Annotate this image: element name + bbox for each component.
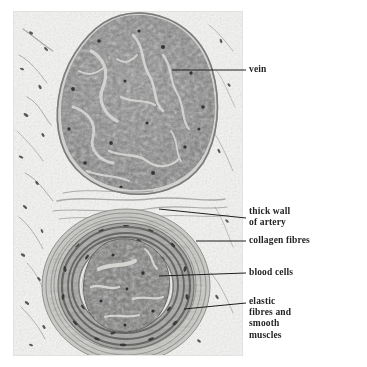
micrograph-image [13,11,243,356]
label-elastic-fibres-and-smooth-muscles: elastic fibres and smooth muscles [249,296,291,341]
micrograph-figure: vein thick wall of artery collagen fibre… [0,0,367,367]
label-thick-wall-of-artery: thick wall of artery [249,206,290,228]
label-vein: vein [249,64,267,75]
micrograph-canvas [13,11,243,356]
label-collagen-fibres: collagen fibres [249,235,310,246]
label-blood-cells: blood cells [249,267,293,278]
photographic-grain [13,11,243,356]
